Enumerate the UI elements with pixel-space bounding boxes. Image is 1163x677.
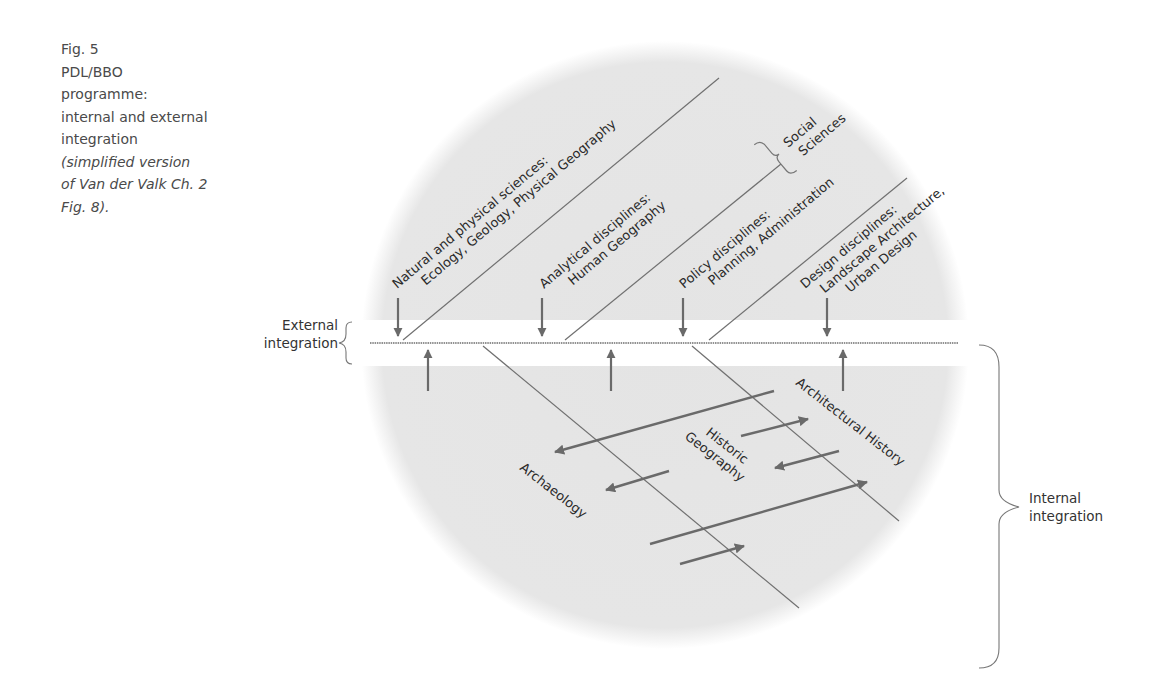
internal-integration-label: Internal integration	[1029, 489, 1103, 525]
label-line: integration	[240, 334, 338, 352]
label-line: integration	[1029, 507, 1103, 525]
integration-diagram: Natural and physical sciences: Ecology, …	[0, 0, 1163, 677]
external-integration-label: External integration	[240, 316, 338, 352]
label-line: External	[240, 316, 338, 334]
label-line: Internal	[1029, 489, 1103, 507]
internal-brace-icon	[979, 345, 1019, 668]
